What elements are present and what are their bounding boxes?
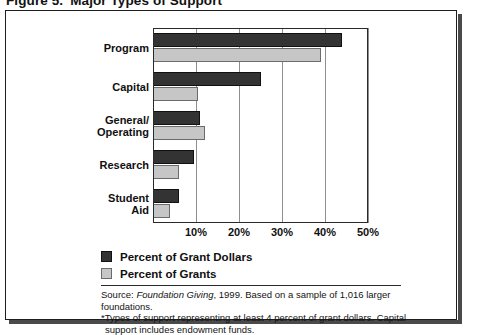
source-note: Source: Foundation Giving, 1999. Based o… <box>101 289 431 335</box>
bar-group <box>153 184 368 223</box>
x-axis-tick-labels: 10%20%30%40%50% <box>153 226 383 242</box>
chart-legend: Percent of Grant DollarsPercent of Grant… <box>101 250 252 284</box>
bar-grants <box>153 204 170 218</box>
source-divider <box>101 285 401 286</box>
figure-shadow-right <box>458 14 462 324</box>
x-tick-label: 10% <box>185 226 207 238</box>
bar-dollars <box>153 150 194 164</box>
figure-number: Figure 5. <box>6 0 63 8</box>
legend-label: Percent of Grants <box>120 268 217 280</box>
category-label-student-aid: StudentAid <box>19 192 149 216</box>
category-label-line: Capital <box>19 81 149 93</box>
bar-dollars <box>153 72 261 86</box>
bar-grants <box>153 48 321 62</box>
figure-title: Figure 5.Major Types of Support <box>6 0 222 8</box>
x-tick-label: 30% <box>271 226 293 238</box>
category-label-line: Operating <box>19 126 149 138</box>
figure-title-text: Major Types of Support <box>70 0 222 8</box>
bar-group <box>153 67 368 106</box>
x-tick-label: 40% <box>314 226 336 238</box>
bar-grants <box>153 87 198 101</box>
category-label-line: Research <box>19 159 149 171</box>
category-label-line: Aid <box>19 204 149 216</box>
x-tick-label: 50% <box>357 226 379 238</box>
legend-swatch-grants <box>101 268 112 279</box>
category-label-line: General/ <box>19 114 149 126</box>
bar-series-container <box>153 28 368 223</box>
category-label-line: Student <box>19 192 149 204</box>
source-footnote-1: *Types of support representing at least … <box>101 312 431 324</box>
source-footnote-2: support includes endowment funds. <box>101 324 431 335</box>
bar-grants <box>153 165 179 179</box>
bar-dollars <box>153 189 179 203</box>
category-label-program: Program <box>19 42 149 54</box>
bar-group <box>153 28 368 67</box>
legend-label: Percent of Grant Dollars <box>120 251 252 263</box>
category-label-line: Program <box>19 42 149 54</box>
legend-swatch-dollars <box>101 251 112 262</box>
bar-grants <box>153 126 205 140</box>
gridline-50 <box>368 28 369 223</box>
legend-item: Percent of Grants <box>101 267 252 280</box>
category-label-research: Research <box>19 159 149 171</box>
bar-dollars <box>153 111 200 125</box>
category-label-general-operating: General/Operating <box>19 114 149 138</box>
bar-dollars <box>153 33 342 47</box>
chart-plot-area <box>153 28 368 223</box>
source-publication: Foundation Giving <box>136 289 213 300</box>
bar-group <box>153 145 368 184</box>
bar-group <box>153 106 368 145</box>
x-tick-label: 20% <box>228 226 250 238</box>
category-label-capital: Capital <box>19 81 149 93</box>
category-axis-labels: ProgramCapitalGeneral/OperatingResearchS… <box>15 28 149 223</box>
legend-item: Percent of Grant Dollars <box>101 250 252 263</box>
source-prefix: Source: <box>101 289 136 300</box>
